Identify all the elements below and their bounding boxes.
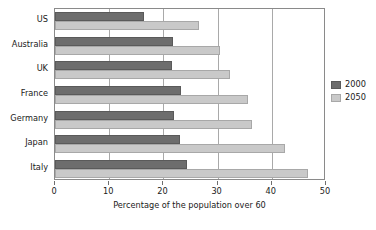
y-axis-label-france: France xyxy=(0,89,48,98)
plot-area xyxy=(54,8,325,180)
x-tick xyxy=(271,181,272,185)
x-tick xyxy=(54,181,55,185)
bar-group xyxy=(55,156,324,181)
bar-germany-2050[interactable] xyxy=(55,120,252,129)
x-tick-label-30: 30 xyxy=(197,186,237,196)
x-axis-title: Percentage of the population over 60 xyxy=(54,200,325,210)
bar-us-2000[interactable] xyxy=(55,12,144,21)
bar-italy-2000[interactable] xyxy=(55,160,187,169)
x-tick xyxy=(325,181,326,185)
bar-group xyxy=(55,34,324,59)
y-axis-label-japan: Japan xyxy=(0,138,48,147)
bar-italy-2050[interactable] xyxy=(55,169,308,178)
bar-group xyxy=(55,83,324,108)
x-tick-label-50: 50 xyxy=(305,186,345,196)
bar-france-2050[interactable] xyxy=(55,95,248,104)
y-axis-label-italy: Italy xyxy=(0,163,48,172)
bar-us-2050[interactable] xyxy=(55,21,199,30)
chart-page: USAustraliaUKFranceGermanyJapanItaly 010… xyxy=(0,0,376,230)
x-tick xyxy=(108,181,109,185)
y-axis-label-australia: Australia xyxy=(0,40,48,49)
x-tick-label-10: 10 xyxy=(88,186,128,196)
bar-group xyxy=(55,132,324,157)
legend-item-2050[interactable]: 2050 xyxy=(331,91,366,104)
x-tick xyxy=(217,181,218,185)
bar-germany-2000[interactable] xyxy=(55,111,174,120)
bar-japan-2000[interactable] xyxy=(55,135,180,144)
x-tick xyxy=(162,181,163,185)
bar-group xyxy=(55,107,324,132)
bar-group xyxy=(55,58,324,83)
y-axis-label-uk: UK xyxy=(0,64,48,73)
x-tick-label-40: 40 xyxy=(251,186,291,196)
legend-label-2000: 2000 xyxy=(345,80,366,89)
bar-australia-2050[interactable] xyxy=(55,46,220,55)
x-tick-label-20: 20 xyxy=(142,186,182,196)
x-tick-label-0: 0 xyxy=(34,186,74,196)
y-axis-label-germany: Germany xyxy=(0,114,48,123)
legend-label-2050: 2050 xyxy=(345,93,366,102)
legend-item-2000[interactable]: 2000 xyxy=(331,78,366,91)
bar-uk-2050[interactable] xyxy=(55,70,230,79)
chart-legend: 2000 2050 xyxy=(331,78,366,104)
y-axis-label-us: US xyxy=(0,15,48,24)
bar-uk-2000[interactable] xyxy=(55,61,172,70)
legend-swatch-2000-icon xyxy=(331,81,341,89)
bar-group xyxy=(55,9,324,34)
bar-australia-2000[interactable] xyxy=(55,37,173,46)
bar-france-2000[interactable] xyxy=(55,86,181,95)
legend-swatch-2050-icon xyxy=(331,94,341,102)
bar-japan-2050[interactable] xyxy=(55,144,285,153)
